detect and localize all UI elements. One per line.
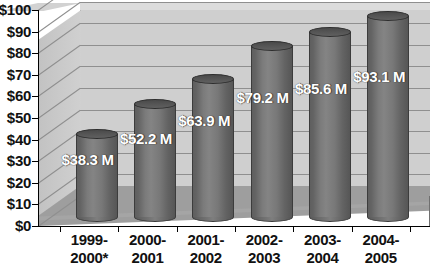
x-axis-tick-label-line: 2003 xyxy=(235,249,293,267)
y-axis-tick-label: $90 xyxy=(7,24,31,39)
y-axis-tick xyxy=(32,161,39,162)
bar xyxy=(192,79,234,217)
bar-body xyxy=(367,16,409,217)
bar-body xyxy=(192,79,234,217)
x-axis-tick-label-line: 2002 xyxy=(177,249,235,267)
x-axis-tick xyxy=(410,226,411,232)
bar-top-ellipse xyxy=(251,41,293,51)
bar xyxy=(76,134,118,217)
x-axis-tick-label-line: 2003- xyxy=(293,231,351,249)
x-axis-tick-label-line: 1999- xyxy=(60,231,118,249)
y-axis-tick-labels: $0$10$20$30$40$50$60$70$80$90$100 xyxy=(0,0,31,272)
y-axis-tick-label: $80 xyxy=(7,45,31,60)
y-axis-tick-label: $60 xyxy=(7,88,31,103)
x-axis-line xyxy=(38,226,430,227)
bar-top-ellipse xyxy=(309,27,351,37)
x-axis-tick-label-line: 2001 xyxy=(118,249,176,267)
bar-top-ellipse xyxy=(367,11,409,21)
bar-body xyxy=(134,104,176,217)
bar-top-ellipse xyxy=(192,74,234,84)
x-axis-tick-label-line: 2002- xyxy=(235,231,293,249)
bar-data-label: $79.2 M xyxy=(237,90,289,105)
bar-data-label: $93.1 M xyxy=(353,69,405,84)
y-axis-tick xyxy=(32,204,39,205)
y-axis-tick xyxy=(32,183,39,184)
bar xyxy=(251,46,293,217)
plot-right-edge xyxy=(429,196,430,226)
y-axis-tick xyxy=(32,226,39,227)
x-axis-tick-label-line: 2000* xyxy=(60,249,118,267)
y-axis-tick xyxy=(32,32,39,33)
x-axis-tick-label: 2000-2001 xyxy=(118,231,176,266)
bar-body xyxy=(251,46,293,217)
x-axis-tick-label: 2001-2002 xyxy=(177,231,235,266)
bar xyxy=(309,32,351,217)
y-axis-tick xyxy=(32,118,39,119)
x-axis-tick-label-line: 2000- xyxy=(118,231,176,249)
y-axis-tick-label: $20 xyxy=(7,175,31,190)
y-axis-tick-label: $100 xyxy=(0,2,31,17)
y-axis-tick-label: $30 xyxy=(7,153,31,168)
y-axis-tick-label: $70 xyxy=(7,67,31,82)
y-axis-tick-label: $50 xyxy=(7,110,31,125)
bar xyxy=(367,16,409,217)
bar-data-label: $63.9 M xyxy=(178,113,230,128)
bar-data-label: $85.6 M xyxy=(295,81,347,96)
x-axis-tick-label-line: 2004 xyxy=(293,249,351,267)
x-axis-tick-label: 2003-2004 xyxy=(293,231,351,266)
bar xyxy=(134,104,176,217)
y-axis-tick xyxy=(32,10,39,11)
x-axis-tick-label: 1999-2000* xyxy=(60,231,118,266)
bar-chart: $0$10$20$30$40$50$60$70$80$90$100 $38.3 … xyxy=(0,0,447,272)
y-axis-tick xyxy=(32,53,39,54)
y-axis-tick xyxy=(32,75,39,76)
x-axis-tick-label: 2002-2003 xyxy=(235,231,293,266)
bar-data-label: $52.2 M xyxy=(120,131,172,146)
y-axis-tick xyxy=(32,96,39,97)
bar-body xyxy=(309,32,351,217)
y-axis-tick-label: $10 xyxy=(7,196,31,211)
x-axis-tick-label: 2004-2005 xyxy=(352,231,410,266)
gridline xyxy=(80,2,430,3)
y-axis-tick xyxy=(32,140,39,141)
x-axis-tick-label-line: 2005 xyxy=(352,249,410,267)
bar-data-label: $38.3 M xyxy=(62,152,114,167)
bar-body xyxy=(76,134,118,217)
x-axis-tick-label-line: 2004- xyxy=(352,231,410,249)
chart-3d-scene: $0$10$20$30$40$50$60$70$80$90$100 $38.3 … xyxy=(0,0,447,272)
y-axis-tick-label: $40 xyxy=(7,132,31,147)
x-axis-tick-label-line: 2001- xyxy=(177,231,235,249)
y-axis-tick-label: $0 xyxy=(15,218,31,233)
